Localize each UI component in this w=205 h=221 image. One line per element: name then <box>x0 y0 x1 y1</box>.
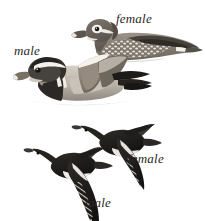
plate-artwork <box>0 0 205 221</box>
label-swimming-male: male <box>14 44 40 57</box>
label-swimming-female: female <box>116 12 152 25</box>
label-flying-female: female <box>128 152 164 165</box>
label-flying-male: male <box>85 196 111 209</box>
bird-illustration-plate: female male female male <box>0 0 205 221</box>
